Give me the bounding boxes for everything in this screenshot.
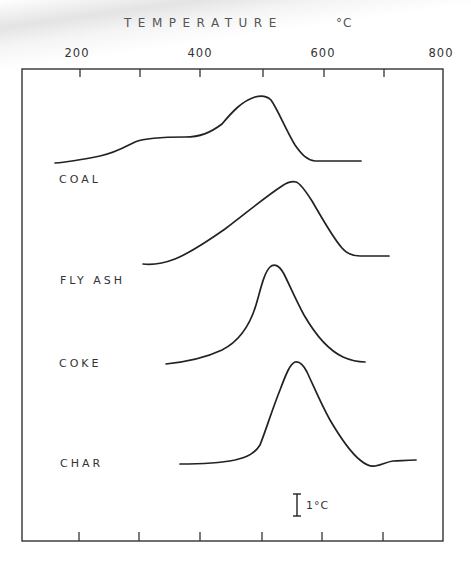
plot-frame bbox=[22, 69, 443, 541]
label-coal: COAL bbox=[59, 173, 101, 186]
label-coke: COKE bbox=[59, 357, 102, 370]
label-char: CHAR bbox=[60, 457, 103, 470]
coke-curve bbox=[166, 265, 365, 364]
fly-ash-curve bbox=[143, 182, 389, 265]
scale-bar-label: 1°C bbox=[306, 499, 329, 512]
coal-curve bbox=[55, 96, 361, 163]
char-curve bbox=[180, 362, 416, 466]
bottom-ticks bbox=[79, 532, 383, 541]
label-fly-ash: FLY ASH bbox=[60, 274, 125, 287]
top-ticks bbox=[80, 69, 384, 77]
scale-bar bbox=[293, 494, 301, 516]
